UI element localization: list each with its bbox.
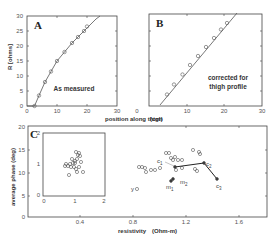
panel-a-label: A: [34, 19, 42, 31]
svg-text:5: 5: [22, 193, 26, 199]
svg-text:5: 5: [20, 88, 24, 94]
panel-b-annotation-line1: corrected for: [208, 74, 249, 81]
panel-a: A 0 5 10 15 20 25 30 0 10 20 30 R [ohms]: [7, 13, 121, 114]
label-c3: c3: [216, 183, 222, 191]
svg-text:30: 30: [114, 108, 121, 114]
figure: A 0 5 10 15 20 25 30 0 10 20 30 R [ohms]: [0, 0, 277, 240]
svg-text:15: 15: [18, 147, 25, 153]
panel-b-annotation-line2: thigh profile: [209, 83, 247, 91]
svg-text:20: 20: [18, 124, 25, 130]
svg-text:10: 10: [18, 170, 25, 176]
svg-text:0: 0: [42, 198, 46, 204]
label-m1: m1: [166, 184, 174, 192]
svg-text:1: 1: [73, 198, 77, 204]
svg-text:1.6: 1.6: [235, 219, 244, 225]
label-m2: m2: [180, 179, 188, 187]
svg-text:15: 15: [16, 58, 23, 64]
panel-a-markers: [33, 25, 89, 108]
panel-b-xticks: 0 10 20 30: [135, 14, 266, 114]
svg-text:20: 20: [221, 108, 228, 114]
panel-b: B 0 10 20 30 corrected for thigh profile: [135, 13, 266, 114]
svg-text:0: 0: [37, 192, 41, 198]
svg-text:10: 10: [16, 73, 23, 79]
svg-text:30: 30: [16, 13, 23, 19]
c1-leader: [165, 162, 174, 166]
panel-c-ylabel: average phase (deg): [10, 148, 16, 206]
panel-a-yticks: 0 5 10 15 20 25 30: [16, 13, 117, 109]
panel-b-axes: [149, 14, 262, 106]
svg-text:1: 1: [37, 161, 41, 167]
panel-ab-xunit: (cm): [150, 116, 163, 122]
panel-c-inset: 2 1 0 0 1 2: [37, 130, 107, 204]
label-y: y: [131, 186, 134, 192]
svg-text:30: 30: [259, 108, 266, 114]
panel-c-xunit: (Ohm-m): [152, 228, 177, 234]
svg-text:1.2: 1.2: [182, 219, 191, 225]
svg-text:25: 25: [16, 28, 23, 34]
panel-a-annotation: As measured: [54, 85, 95, 92]
svg-text:10: 10: [54, 108, 61, 114]
panel-b-fit-line: [160, 13, 237, 105]
svg-text:2: 2: [102, 198, 106, 204]
label-c2: c2: [206, 161, 212, 169]
panel-b-label: B: [156, 17, 164, 29]
svg-text:0.8: 0.8: [129, 219, 138, 225]
svg-text:0: 0: [20, 103, 24, 109]
svg-text:20: 20: [84, 108, 91, 114]
panel-c: C 0 5 10 15 20 0.4 0.8 1.2 1.6 average p…: [10, 124, 267, 234]
svg-text:0: 0: [22, 214, 26, 220]
svg-text:0.4: 0.4: [76, 219, 85, 225]
svg-text:2: 2: [37, 130, 41, 136]
svg-text:0: 0: [25, 108, 29, 114]
svg-text:10: 10: [184, 108, 191, 114]
panel-a-ylabel: R [ohms]: [7, 44, 13, 70]
svg-text:20: 20: [16, 43, 23, 49]
label-c1: c1: [157, 158, 163, 166]
panel-c-xlabel: resistivity: [118, 228, 147, 234]
svg-text:0: 0: [135, 108, 139, 114]
